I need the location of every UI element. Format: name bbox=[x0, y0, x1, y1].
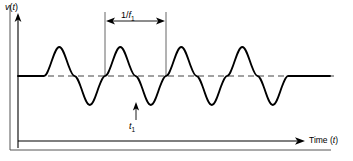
figure-canvas bbox=[0, 0, 353, 161]
y-axis-label-close-paren: ) bbox=[15, 2, 18, 12]
time-marker-label-subscript: 1 bbox=[132, 126, 136, 133]
period-label: 1/f1 bbox=[121, 11, 135, 22]
x-axis-label-text: Time ( bbox=[309, 135, 333, 145]
waveform-figure: v(t) 1/f1 t1 Time (t) bbox=[0, 0, 353, 161]
figure-frame bbox=[10, 5, 331, 150]
x-axis-label-close-paren: ) bbox=[335, 135, 338, 145]
x-axis-label: Time (t) bbox=[309, 136, 338, 145]
time-marker-label: t1 bbox=[129, 122, 135, 133]
period-label-subscript: 1 bbox=[131, 15, 135, 22]
y-axis-label: v(t) bbox=[5, 3, 18, 12]
